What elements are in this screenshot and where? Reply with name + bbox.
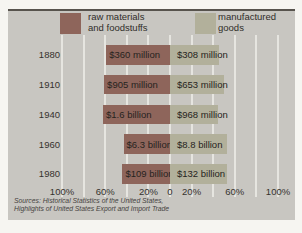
year-label: 1940 [8,105,60,125]
bar-value-label-raw: $1.6 billion [106,105,151,125]
legend-label-raw-materials: raw materials and foodstuffs [88,12,148,33]
bar-value-label-manufactured: $132 billion [177,164,225,184]
sources-note: Sources: Historical Statistics of the Un… [14,197,169,212]
bar-value-label-raw: $905 million [107,75,158,95]
gridline [277,35,279,197]
bar-value-label-raw: $360 million [109,45,160,65]
bar-value-label-manufactured: $968 million [177,105,228,125]
sources-line2: Highlights of United States Export and I… [14,205,169,212]
bar-value-label-manufactured: $8.8 billion [177,134,222,154]
chart-panel: raw materials and foodstuffs manufacture… [8,9,295,220]
legend-mfg-line2: goods [218,22,244,33]
legend-swatch-manufactured-goods [195,13,216,34]
legend-mfg-line1: manufactured [218,11,276,22]
year-label: 1960 [8,134,60,154]
year-label: 1910 [8,75,60,95]
gridline [83,35,85,197]
axis-tick-label: 0 [167,186,172,197]
legend-raw-line1: raw materials [88,11,145,22]
axis-tick-label: 100% [266,186,290,197]
legend-raw-line2: and foodstuffs [88,22,148,33]
legend-swatch-raw-materials [60,13,81,34]
sources-line1: Sources: Historical Statistics of the Un… [14,197,163,204]
gridline [234,35,236,197]
axis-tick-label: 100% [50,186,74,197]
legend-label-manufactured-goods: manufactured goods [218,12,276,33]
bar-value-label-raw: $6.3 billion [127,134,172,154]
axis-tick-label: 60% [225,186,244,197]
gridline [61,35,63,197]
year-label: 1980 [8,164,60,184]
gridline [255,35,257,197]
axis-tick-label: 60% [96,186,115,197]
bar-value-label-raw: $109 billion [125,164,173,184]
bar-value-label-manufactured: $308 million [177,45,228,65]
axis-tick-label: 20% [182,186,201,197]
year-label: 1880 [8,45,60,65]
axis-tick-label: 20% [139,186,158,197]
bar-value-label-manufactured: $653 million [177,75,228,95]
